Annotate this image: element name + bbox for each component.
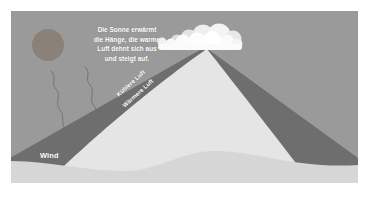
caption-line-2: die Hänge, die warme — [67, 35, 187, 45]
sun-icon — [32, 29, 64, 61]
diagram-scene: Die Sonne erwärmt die Hänge, die warme L… — [11, 11, 358, 183]
wind-diagram-figure: Die Sonne erwärmt die Hänge, die warme L… — [0, 0, 370, 197]
diagram-caption: Die Sonne erwärmt die Hänge, die warme L… — [67, 25, 187, 64]
label-wind: Wind — [40, 151, 59, 161]
caption-line-1: Die Sonne erwärmt — [67, 25, 187, 35]
caption-line-3: Luft dehnt sich aus — [67, 44, 187, 54]
caption-line-4: und steigt auf. — [67, 54, 187, 64]
